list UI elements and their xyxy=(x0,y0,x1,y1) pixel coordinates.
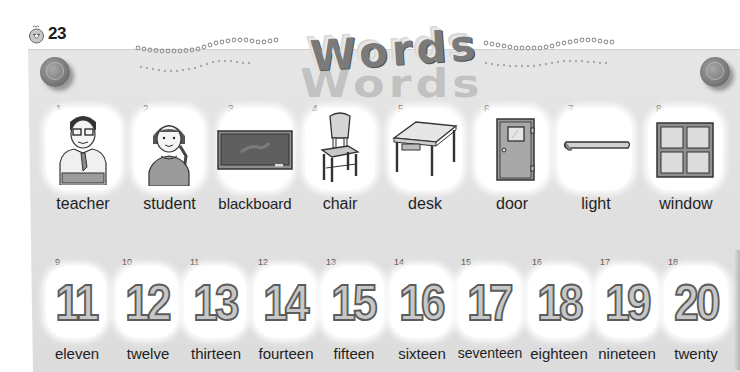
vocab-word: thirteen xyxy=(176,345,256,362)
item-number: 18 xyxy=(668,257,678,267)
number-card-nineteen[interactable]: 17 19 nineteen xyxy=(592,252,664,370)
item-number: 9 xyxy=(55,257,60,267)
vocab-card-blackboard[interactable]: 3 blackboard xyxy=(212,100,298,220)
vocab-card-desk[interactable]: 5 desk xyxy=(384,100,466,220)
desk-icon xyxy=(392,120,458,178)
track-number: 23 xyxy=(48,24,66,44)
item-number: 17 xyxy=(600,257,610,267)
chair-icon xyxy=(318,112,362,184)
number-card-thirteen[interactable]: 11 13 thirteen xyxy=(180,252,252,370)
vocab-card-student[interactable]: 2 student xyxy=(127,100,207,220)
numeral: 11 xyxy=(48,274,104,332)
vocab-word: nineteen xyxy=(586,345,668,362)
vocab-card-door[interactable]: 6 door xyxy=(470,100,554,220)
vocab-word: door xyxy=(470,195,554,213)
item-number: 16 xyxy=(532,257,542,267)
number-card-fifteen[interactable]: 13 15 fifteen xyxy=(318,252,390,370)
numeral-graphic: 12 xyxy=(115,274,179,334)
numeral: 12 xyxy=(119,274,175,332)
blackboard-icon xyxy=(217,130,293,172)
vocab-word: twenty xyxy=(658,345,734,362)
track-header: 23 xyxy=(28,24,66,44)
number-card-twelve[interactable]: 10 12 twelve xyxy=(110,252,182,370)
numeral-graphic: 17 xyxy=(457,274,521,334)
door-icon xyxy=(496,118,536,182)
page-title: Words Words xyxy=(290,18,480,98)
vocabulary-row-1: 1 teacher 2 student 3 xyxy=(0,100,740,220)
number-card-eleven[interactable]: 9 11 eleven xyxy=(38,252,110,370)
vocab-word: desk xyxy=(384,195,466,213)
vocabulary-row-2: 9 11 eleven 10 12 twelve 11 13 thirteen … xyxy=(0,252,740,370)
window-icon xyxy=(656,122,714,178)
numeral: 15 xyxy=(325,274,381,332)
item-number: 15 xyxy=(461,257,471,267)
teacher-icon xyxy=(48,110,118,185)
vocab-card-teacher[interactable]: 1 teacher xyxy=(38,100,128,220)
student-icon xyxy=(139,114,199,186)
numeral-graphic: 13 xyxy=(183,274,247,334)
push-pin-left-icon xyxy=(40,57,70,87)
numeral: 20 xyxy=(668,274,724,332)
vocab-word: teacher xyxy=(38,195,128,213)
item-number: 11 xyxy=(190,257,199,267)
number-card-seventeen[interactable]: 15 17 seventeen xyxy=(455,252,527,370)
vocab-card-chair[interactable]: 4 chair xyxy=(300,100,380,220)
vocab-word: blackboard xyxy=(210,195,300,212)
vocab-word: chair xyxy=(300,195,380,213)
vocab-word: student xyxy=(127,195,212,213)
vocab-word: eleven xyxy=(38,345,116,362)
vocab-word: twelve xyxy=(110,345,186,362)
bead-string-left-icon xyxy=(135,35,295,75)
numeral: 18 xyxy=(531,274,587,332)
item-number: 14 xyxy=(394,257,404,267)
numeral-graphic: 20 xyxy=(664,274,728,334)
vocab-card-light[interactable]: 7 light xyxy=(556,100,642,220)
numeral: 17 xyxy=(461,274,517,332)
vocab-card-window[interactable]: 8 window xyxy=(644,100,732,220)
numeral: 13 xyxy=(187,274,243,332)
item-number: 12 xyxy=(258,257,268,267)
numeral: 19 xyxy=(599,274,655,332)
light-icon xyxy=(562,138,632,154)
vocab-word: light xyxy=(556,195,636,213)
cd-icon[interactable] xyxy=(28,25,45,44)
numeral-graphic: 19 xyxy=(595,274,659,334)
number-card-fourteen[interactable]: 12 14 fourteen xyxy=(250,252,322,370)
item-number: 13 xyxy=(326,257,336,267)
numeral-graphic: 15 xyxy=(321,274,385,334)
bead-string-right-icon xyxy=(483,35,628,75)
item-number: 10 xyxy=(122,257,132,267)
number-card-twenty[interactable]: 18 20 twenty xyxy=(662,252,734,370)
numeral-graphic: 18 xyxy=(527,274,591,334)
numeral-graphic: 11 xyxy=(44,274,108,334)
numeral-graphic: 14 xyxy=(253,274,317,334)
vocab-word: window xyxy=(644,195,728,213)
numeral-graphic: 16 xyxy=(389,274,453,334)
push-pin-right-icon xyxy=(700,57,730,87)
numeral: 16 xyxy=(393,274,449,332)
numeral: 14 xyxy=(257,274,313,332)
